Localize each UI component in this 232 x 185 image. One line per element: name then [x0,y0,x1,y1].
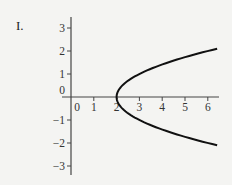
x-tick-label: 0 [74,101,80,113]
x-tick-label: 6 [205,101,211,113]
y-tick-label: −2 [53,137,65,149]
x-tick-label: 1 [91,101,97,113]
y-tick-label: 2 [59,45,65,57]
y-tick-label: −1 [53,114,65,126]
x-tick-label: 3 [137,101,143,113]
y-tick-label: 0 [59,84,65,96]
y-tick-label: 3 [59,22,65,34]
y-tick-label: −3 [53,160,65,172]
x-tick-label: 4 [159,101,165,113]
y-tick-label: 1 [59,68,65,80]
parabola-chart: 01234563210−1−2−3 [0,0,232,185]
x-tick-label: 5 [182,101,188,113]
